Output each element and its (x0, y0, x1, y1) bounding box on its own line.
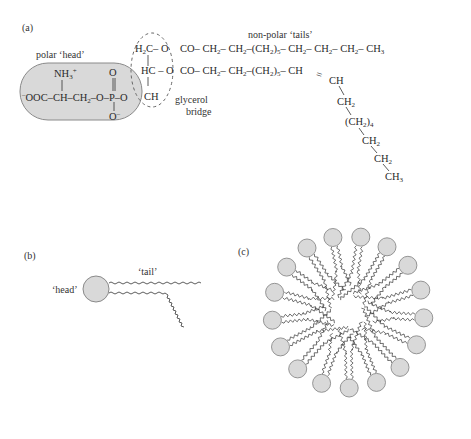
head-main-chain: –OOC–CH–CH2–O–P–O (22, 92, 128, 105)
branch-ch: CH (329, 76, 344, 87)
branch-ch3: CH3 (385, 172, 403, 184)
branch-ch2-2: CH2 (362, 136, 380, 148)
branch-ch2-4: (CH2)4 (345, 117, 374, 129)
glycerol-row-2: HC – O (141, 66, 174, 77)
panel-b-label: (b) (24, 250, 36, 261)
phosphate-bottom-oxygen: O– (109, 111, 120, 123)
fatty-acid-tail-2: CO– CH2– CH2–(CH2)5– CH (180, 66, 303, 78)
lipid-tail-2 (109, 292, 184, 327)
fatty-acid-tail-1: CO– CH2– CH2–(CH2)5– CH2– CH2– CH2– CH3 (180, 44, 384, 56)
phosphate-top-oxygen: O (109, 68, 117, 79)
branch-ch2-1: CH2 (337, 97, 355, 109)
glycerol-row-1: H2C– O (135, 44, 169, 56)
tail-label: ‘tail’ (138, 266, 157, 277)
lipid-head-circle (83, 276, 109, 302)
head-label: ‘head’ (52, 284, 78, 295)
micelle-water-halo (235, 200, 463, 428)
lipid-tail-1 (109, 282, 201, 284)
panel-c-label: (c) (238, 246, 249, 257)
ammonium-group: NH3+ (54, 68, 77, 81)
branch-ch2-3: CH2 (374, 154, 392, 166)
glycerol-row-3: CH (144, 92, 159, 103)
